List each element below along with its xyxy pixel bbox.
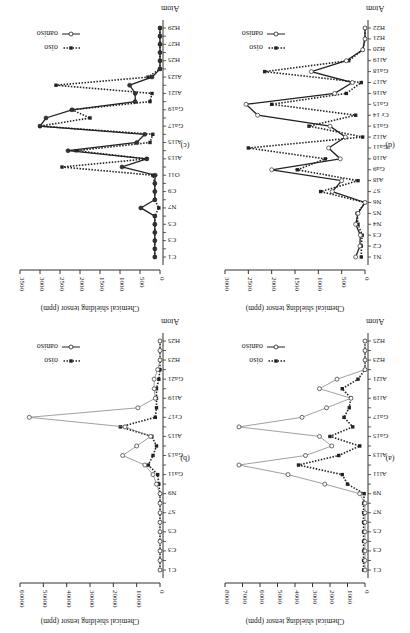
atom-tick-label: N6	[373, 198, 382, 206]
atom-tick-label: Cr 14	[373, 111, 389, 119]
marker-open-circle	[256, 113, 260, 117]
panel-label: (c)	[180, 141, 189, 150]
legend-iso-label: σiso	[249, 356, 263, 365]
y-tick-label: 2500	[246, 277, 254, 292]
atom-tick-label: H29	[168, 24, 181, 32]
y-tick-label: 0	[158, 590, 166, 594]
marker-open-circle	[323, 482, 327, 486]
y-tick-label: 1000	[316, 277, 324, 292]
legend-iso-label: σiso	[44, 43, 58, 52]
marker-open-circle	[363, 501, 367, 505]
atom-tick-label: H21	[373, 34, 386, 42]
atom-tick-label: S7	[168, 508, 176, 516]
marker-open-circle	[158, 558, 162, 562]
plot-group: 0100002000030000400005000060000C1C3C5S7N…	[18, 317, 190, 626]
legend-aniso-label: σaniso	[242, 29, 263, 38]
marker-square	[354, 114, 357, 117]
plot-group: 010002000300040005000600070008000C1C3C5N…	[223, 317, 394, 626]
marker-open-circle	[363, 568, 367, 572]
marker-open-circle	[333, 91, 337, 95]
marker-filled-circle	[158, 26, 162, 30]
marker-square	[362, 492, 365, 495]
marker-open-circle	[363, 37, 367, 41]
atom-tick-label: H25	[168, 337, 181, 345]
atom-tick-label: H25	[373, 337, 386, 345]
figure-rotated: 010002000300040005000600070008000C1C3C5N…	[0, 0, 410, 633]
marker-open-circle	[358, 244, 362, 248]
marker-filled-circle	[133, 91, 137, 95]
marker-open-circle	[309, 70, 313, 74]
atom-tick-label: Ga15	[373, 432, 389, 440]
marker-square	[157, 206, 160, 209]
series-line-aniso	[29, 341, 160, 570]
atom-tick-label: C5	[373, 527, 382, 535]
y-tick-label: 20000	[111, 590, 119, 608]
plot-group: 050010001500200025003000N1C2C3N4N5N6S7Al…	[223, 4, 395, 313]
marker-filled-circle	[158, 67, 162, 71]
marker-open-circle	[330, 190, 334, 194]
marker-filled-circle	[153, 190, 157, 194]
marker-open-circle	[244, 102, 248, 106]
marker-filled-circle	[158, 59, 162, 63]
atom-tick-label: C1	[168, 253, 177, 261]
panel-label: (d)	[385, 141, 395, 150]
marker-open-circle	[363, 368, 367, 372]
legend-aniso-label: σaniso	[242, 342, 263, 351]
atom-tick-label: N4	[373, 220, 382, 228]
chart-c: 0500100015002000250030003500C1C3C5N7C9O1…	[0, 0, 205, 320]
marker-square	[154, 416, 157, 419]
marker-open-circle	[135, 444, 139, 448]
marker-open-circle	[158, 339, 162, 343]
y-tick-label: 50000	[41, 590, 49, 608]
marker-open-circle	[158, 530, 162, 534]
marker-open-circle	[158, 568, 162, 572]
panel-label: (b)	[180, 454, 190, 463]
series-line-aniso	[239, 341, 365, 570]
y-tick-label: 0	[363, 590, 371, 594]
marker-square	[157, 377, 160, 380]
marker-open-circle	[328, 124, 332, 128]
marker-open-circle	[318, 387, 322, 391]
marker-open-circle	[156, 368, 160, 372]
marker-square	[324, 157, 327, 160]
marker-open-circle	[343, 135, 347, 139]
atom-tick-label: Ga19	[168, 105, 184, 113]
marker-open-circle	[354, 222, 358, 226]
marker-open-circle	[330, 444, 334, 448]
marker-open-circle	[363, 511, 367, 515]
chart-d: 050010001500200025003000N1C2C3N4N5N6S7Al…	[205, 0, 410, 320]
marker-open-circle	[349, 396, 353, 400]
y-tick-label: 5000	[276, 590, 284, 605]
marker-square	[348, 406, 351, 409]
marker-filled-circle	[153, 173, 157, 177]
atom-tick-label: C3	[373, 546, 382, 554]
marker-open-circle	[123, 425, 127, 429]
marker-square	[358, 444, 361, 447]
marker-open-circle	[363, 339, 367, 343]
marker-square	[319, 190, 322, 193]
panel-label: (a)	[385, 454, 394, 463]
panel-b: 0100002000030000400005000060000C1C3C5S7N…	[0, 313, 205, 633]
atom-tick-label: Al8	[373, 176, 384, 184]
marker-open-circle	[363, 530, 367, 534]
marker-open-circle	[338, 157, 342, 161]
y-tick-label: 1500	[293, 277, 301, 292]
marker-open-circle	[300, 415, 304, 419]
marker-open-circle	[363, 358, 367, 362]
panel-d: 050010001500200025003000N1C2C3N4N5N6S7Al…	[205, 0, 410, 320]
legend: σisoσaniso	[37, 29, 80, 52]
marker-filled-circle	[153, 181, 157, 185]
marker-square	[356, 377, 359, 380]
marker-square	[351, 425, 354, 428]
marker-open-circle	[356, 211, 360, 215]
marker-open-circle	[158, 549, 162, 553]
atom-tick-label: O11	[168, 171, 180, 179]
marker-square	[342, 416, 345, 419]
atom-tick-label: Al11	[373, 470, 387, 478]
marker-square	[270, 103, 273, 106]
marker-square	[296, 168, 299, 171]
marker-square	[341, 387, 344, 390]
atom-tick-label: Ga18	[373, 67, 389, 75]
legend: σisoσaniso	[242, 342, 285, 365]
marker-open-circle	[158, 501, 162, 505]
